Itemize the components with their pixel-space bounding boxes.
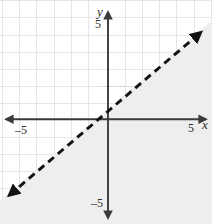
x-tick-label-positive-5: 5 [188, 121, 194, 135]
graph-canvas: y x 5 –5 –5 5 [0, 0, 212, 224]
x-axis-label: x [201, 117, 208, 132]
coordinate-plane-figure: y x 5 –5 –5 5 [0, 0, 212, 224]
x-tick-label-negative-5: –5 [14, 123, 27, 137]
y-tick-label-negative-5: –5 [90, 196, 103, 210]
y-tick-label-positive-5: 5 [95, 17, 101, 31]
